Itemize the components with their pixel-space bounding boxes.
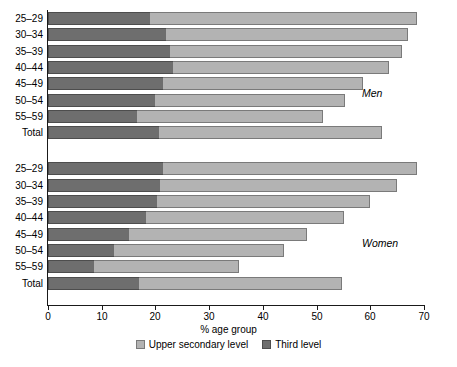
bar-segment-upper-secondary [155, 94, 345, 107]
x-tick-label: 0 [33, 311, 63, 322]
x-tick-label: 70 [409, 311, 439, 322]
x-axis-title: % age group [0, 324, 457, 335]
bar-category-label: Total [0, 277, 43, 290]
x-tick [317, 305, 318, 310]
x-tick [370, 305, 371, 310]
x-tick [424, 305, 425, 310]
group-label-women: Women [362, 237, 398, 249]
bar-segment-third-level [48, 110, 137, 123]
legend-label-upper-secondary: Upper secondary level [149, 339, 249, 350]
bar-segment-third-level [48, 28, 166, 41]
bar-segment-upper-secondary [139, 277, 342, 290]
bar-segment-upper-secondary [163, 162, 418, 175]
bar-category-label: 25–29 [0, 162, 43, 175]
bar-segment-upper-secondary [146, 211, 345, 224]
bar-segment-upper-secondary [173, 61, 390, 74]
bar-category-label: 35–39 [0, 45, 43, 58]
bar-segment-third-level [48, 162, 163, 175]
bar-segment-upper-secondary [129, 228, 307, 241]
light-gray-swatch-icon [136, 340, 145, 349]
bar-category-label: 50–54 [0, 94, 43, 107]
x-tick-label: 20 [140, 311, 170, 322]
bar-category-label: 25–29 [0, 12, 43, 25]
bar-segment-third-level [48, 179, 160, 192]
x-tick-label: 60 [355, 311, 385, 322]
bar-category-label: 50–54 [0, 244, 43, 257]
stacked-bar-chart: 010203040506070 25–2930–3435–3940–4445–4… [0, 0, 457, 367]
bar-segment-upper-secondary [94, 260, 239, 273]
bar-segment-upper-secondary [160, 179, 397, 192]
x-tick [102, 305, 103, 310]
x-tick [48, 305, 49, 310]
x-tick [209, 305, 210, 310]
x-tick [155, 305, 156, 310]
bar-segment-third-level [48, 126, 159, 139]
bar-segment-upper-secondary [170, 45, 403, 58]
bar-segment-upper-secondary [137, 110, 323, 123]
group-label-men: Men [362, 87, 382, 99]
bar-segment-third-level [48, 77, 163, 90]
bar-category-label: 40–44 [0, 211, 43, 224]
bar-segment-third-level [48, 12, 150, 25]
x-tick-label: 40 [248, 311, 278, 322]
legend-label-third-level: Third level [275, 339, 321, 350]
x-tick-label: 30 [194, 311, 224, 322]
chart-legend: Upper secondary level Third level [0, 339, 457, 350]
dark-gray-swatch-icon [262, 340, 271, 349]
legend-item-upper-secondary: Upper secondary level [136, 339, 249, 350]
bar-category-label: Total [0, 126, 43, 139]
bar-segment-third-level [48, 195, 157, 208]
bar-segment-upper-secondary [159, 126, 382, 139]
x-tick-label: 50 [302, 311, 332, 322]
x-tick [263, 305, 264, 310]
bar-category-label: 30–34 [0, 28, 43, 41]
legend-item-third-level: Third level [262, 339, 321, 350]
bar-segment-upper-secondary [150, 12, 417, 25]
bar-category-label: 30–34 [0, 179, 43, 192]
bar-segment-third-level [48, 277, 139, 290]
bar-category-label: 45–49 [0, 228, 43, 241]
bar-segment-third-level [48, 228, 129, 241]
x-axis-line [47, 305, 425, 306]
bar-segment-upper-secondary [163, 77, 363, 90]
x-tick-label: 10 [87, 311, 117, 322]
bar-category-label: 45–49 [0, 77, 43, 90]
bar-segment-upper-secondary [166, 28, 408, 41]
bar-segment-third-level [48, 211, 146, 224]
bar-segment-third-level [48, 61, 173, 74]
bar-category-label: 55–59 [0, 260, 43, 273]
bar-segment-third-level [48, 260, 94, 273]
bar-category-label: 40–44 [0, 61, 43, 74]
bar-category-label: 35–39 [0, 195, 43, 208]
bar-segment-third-level [48, 45, 170, 58]
bar-segment-upper-secondary [114, 244, 284, 257]
bar-segment-upper-secondary [157, 195, 370, 208]
bar-category-label: 55–59 [0, 110, 43, 123]
bar-segment-third-level [48, 244, 114, 257]
bar-segment-third-level [48, 94, 155, 107]
